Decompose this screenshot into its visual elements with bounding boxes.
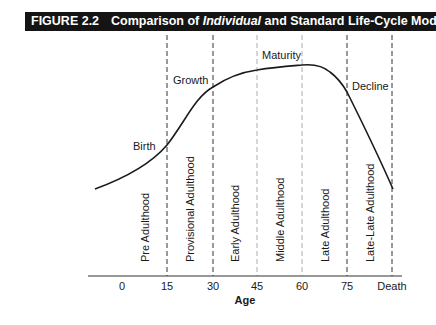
period-label-pre: Pre Adulthood: [139, 193, 151, 262]
period-label-middle: Middle Adulthood: [274, 178, 286, 262]
period-label-early: Early Adulthood: [229, 185, 241, 262]
x-tick-15: 15: [161, 280, 173, 292]
period-label-late: Late Adulthood: [319, 189, 331, 262]
x-tick-60: 60: [296, 280, 308, 292]
x-tick-30: 30: [207, 280, 219, 292]
life-cycle-curve: [95, 65, 393, 189]
period-label-late-late: Late-Late Adulthood: [364, 164, 376, 262]
x-tick-death: Death: [377, 280, 406, 292]
x-tick-45: 45: [251, 280, 263, 292]
stage-label-decline: Decline: [352, 80, 389, 92]
stage-label-birth: Birth: [133, 140, 156, 152]
x-axis-title: Age: [235, 294, 256, 306]
x-tick-75: 75: [341, 280, 353, 292]
period-label-provisional: Provisional Adulthood: [184, 156, 196, 262]
stage-label-maturity: Maturity: [262, 49, 302, 61]
x-tick-0: 0: [119, 280, 125, 292]
stage-label-growth: Growth: [173, 74, 208, 86]
life-cycle-chart: Birth Growth Maturity Decline Pre Adulth…: [0, 0, 436, 325]
